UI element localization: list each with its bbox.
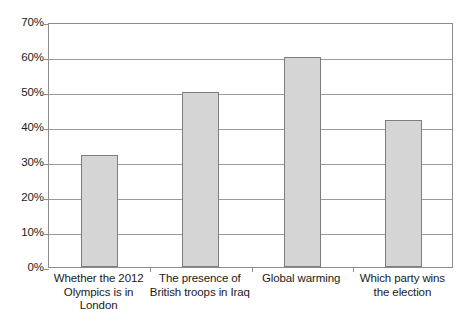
gridline: [49, 94, 452, 95]
bar[interactable]: [182, 92, 219, 267]
y-axis-tick-label: 30%: [2, 157, 44, 169]
x-axis-category-label-line: London: [48, 299, 149, 313]
y-axis-tick-label: 40%: [2, 122, 44, 134]
y-axis-tick: [44, 24, 49, 25]
y-axis-tick-label: 60%: [2, 52, 44, 64]
x-axis-category-label-line: The presence of: [149, 272, 250, 286]
y-axis-labels: 0%10%20%30%40%50%60%70%: [0, 0, 44, 336]
bar[interactable]: [284, 57, 321, 267]
y-axis-tick-label: 70%: [2, 17, 44, 29]
x-axis-category-label-line: Which party wins: [352, 272, 453, 286]
x-axis-category-label-line: the election: [352, 286, 453, 300]
y-axis-tick: [44, 234, 49, 235]
y-axis-tick-label: 20%: [2, 192, 44, 204]
x-axis-category-label-line: Global warming: [251, 272, 352, 286]
y-axis-tick-label: 50%: [2, 87, 44, 99]
plot-area: [48, 23, 453, 268]
y-axis-tick: [44, 59, 49, 60]
x-axis-labels: Whether the 2012Olympics is inLondonThe …: [48, 272, 453, 334]
y-axis-tick: [44, 164, 49, 165]
y-axis-tick: [44, 199, 49, 200]
x-axis-category-label-line: British troops in Iraq: [149, 286, 250, 300]
x-axis-category-label-line: Olympics is in: [48, 286, 149, 300]
x-axis-category-label-line: Whether the 2012: [48, 272, 149, 286]
y-axis-tick: [44, 269, 49, 270]
y-axis-tick-label: 0%: [2, 262, 44, 274]
x-axis-category-label: Global warming: [251, 272, 352, 286]
bar[interactable]: [385, 120, 422, 267]
bar[interactable]: [81, 155, 118, 267]
bar-chart: 0%10%20%30%40%50%60%70% Whether the 2012…: [0, 0, 466, 336]
y-axis-tick-label: 10%: [2, 227, 44, 239]
x-axis-category-label: Whether the 2012Olympics is inLondon: [48, 272, 149, 313]
y-axis-tick: [44, 94, 49, 95]
x-axis-category-label: The presence ofBritish troops in Iraq: [149, 272, 250, 299]
gridline: [49, 59, 452, 60]
x-axis-category-label: Which party winsthe election: [352, 272, 453, 299]
y-axis-tick: [44, 129, 49, 130]
